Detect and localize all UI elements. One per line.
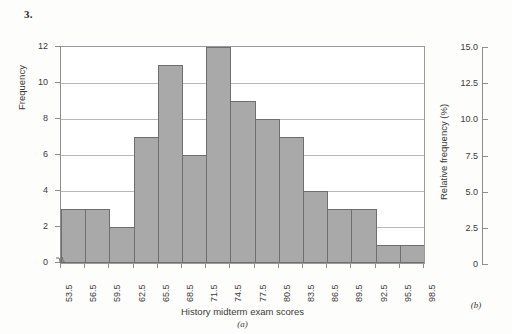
histogram-bar [303, 191, 328, 263]
histogram-bar [351, 209, 376, 263]
x-axis-tick-label: 80.5 [282, 284, 292, 302]
x-axis-tick-label: 92.5 [379, 284, 389, 302]
x-axis-tick [229, 264, 230, 268]
y-axis-tick-label: 8 [43, 113, 48, 123]
secondary-axis-tick [482, 228, 488, 229]
x-axis-tick-label: 89.5 [354, 284, 364, 302]
x-axis-tick-label: 86.5 [330, 284, 340, 302]
secondary-axis-tick-label: 15.0 [436, 42, 478, 52]
x-axis-tick [399, 264, 400, 268]
y-axis-frequency: 024681012 [0, 40, 60, 280]
x-axis-tick [181, 264, 182, 268]
y-axis-tick-label: 10 [38, 77, 48, 87]
secondary-axis-tick-label: 10.0 [436, 114, 478, 124]
secondary-axis-tick [482, 47, 488, 48]
x-axis-tick [60, 264, 61, 268]
histogram-bar [230, 101, 255, 263]
x-axis-tick-label: 83.5 [306, 284, 316, 302]
secondary-axis-tick-label: 7.5 [436, 151, 478, 161]
histogram-bar [376, 245, 401, 263]
histogram-bar [109, 227, 134, 263]
histogram-bar [134, 137, 159, 263]
x-axis-tick [254, 264, 255, 268]
plot-area-histogram [60, 46, 425, 264]
y-axis-tick-label: 6 [43, 149, 48, 159]
y-axis-title-frequency: Frequency [16, 65, 27, 110]
secondary-axis-tick-label: 12.5 [436, 78, 478, 88]
x-axis-exam-scores: 53.556.559.562.565.568.571.574.577.580.5… [60, 264, 425, 308]
y-axis-tick-label: 12 [38, 41, 48, 51]
histogram-bar [85, 209, 110, 263]
histogram-panel-a: 024681012 Frequency 53.556.559.562.565.5… [0, 0, 432, 334]
histogram-bar [61, 209, 86, 263]
x-axis-tick [278, 264, 279, 268]
histogram-bar [400, 245, 425, 263]
x-axis-tick-label: 74.5 [233, 284, 243, 302]
x-axis-title-exam-scores: History midterm exam scores [60, 306, 425, 317]
x-axis-tick-label: 62.5 [137, 284, 147, 302]
x-axis-tick [157, 264, 158, 268]
gridline [61, 83, 424, 84]
y-axis-tick-label: 0 [43, 257, 48, 267]
histogram-bar [182, 155, 207, 263]
x-axis-tick [423, 264, 424, 268]
secondary-axis-tick-label: 0 [436, 259, 478, 269]
y-axis-tick-label: 4 [43, 185, 48, 195]
x-axis-tick [133, 264, 134, 268]
x-axis-tick-label: 59.5 [112, 284, 122, 302]
x-axis-tick [84, 264, 85, 268]
x-axis-tick-label: 68.5 [185, 284, 195, 302]
histogram-bar [255, 119, 280, 263]
x-axis-tick-label: 71.5 [209, 284, 219, 302]
x-axis-tick [350, 264, 351, 268]
y-axis-tick-label: 2 [43, 221, 48, 231]
x-axis-tick-label: 95.5 [403, 284, 413, 302]
relative-frequency-panel-b: Relative frequency (%) (b) 02.55.07.510.… [432, 0, 512, 334]
figure-page: 3. 024681012 Frequency 53.556.559.562.56… [0, 0, 512, 334]
panel-a-caption: (a) [60, 319, 425, 329]
x-axis-tick [375, 264, 376, 268]
histogram-bar [279, 137, 304, 263]
x-axis-tick [205, 264, 206, 268]
x-axis-tick-label: 65.5 [161, 284, 171, 302]
histogram-bar [158, 65, 183, 263]
x-axis-tick [326, 264, 327, 268]
secondary-axis-tick [482, 83, 488, 84]
histogram-bar [206, 47, 231, 263]
x-axis-tick [108, 264, 109, 268]
histogram-bar [327, 209, 352, 263]
secondary-axis-tick [482, 156, 488, 157]
x-axis-tick-label: 53.5 [64, 284, 74, 302]
secondary-axis-tick-label: 5.0 [436, 187, 478, 197]
secondary-axis-tick [482, 192, 488, 193]
secondary-axis-tick [482, 119, 488, 120]
secondary-axis-tick [482, 264, 488, 265]
x-axis-tick-label: 77.5 [258, 284, 268, 302]
x-axis-tick-label: 56.5 [88, 284, 98, 302]
panel-b-caption: (b) [446, 300, 506, 310]
x-axis-tick [302, 264, 303, 268]
secondary-axis-tick-label: 2.5 [436, 223, 478, 233]
